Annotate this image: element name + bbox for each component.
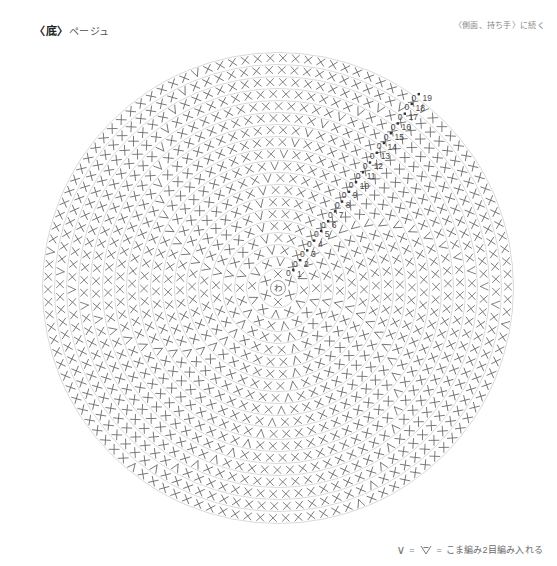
single-crochet-symbol bbox=[221, 230, 231, 240]
single-crochet-symbol bbox=[85, 415, 95, 425]
single-crochet-symbol bbox=[171, 489, 180, 498]
single-crochet-symbol bbox=[216, 306, 225, 315]
single-crochet-symbol bbox=[433, 341, 442, 350]
single-crochet-symbol bbox=[419, 301, 427, 309]
single-crochet-symbol bbox=[480, 270, 487, 277]
single-crochet-symbol bbox=[388, 193, 398, 203]
single-crochet-symbol bbox=[87, 371, 96, 380]
single-crochet-symbol bbox=[135, 329, 144, 338]
single-crochet-symbol bbox=[161, 237, 170, 246]
increase-stitch-symbol bbox=[192, 459, 202, 469]
single-crochet-symbol bbox=[132, 317, 140, 325]
increase-stitch-symbol bbox=[438, 241, 447, 250]
single-crochet-symbol bbox=[407, 143, 417, 153]
single-crochet-symbol bbox=[192, 433, 201, 442]
single-crochet-symbol bbox=[118, 214, 127, 223]
single-crochet-symbol bbox=[304, 141, 312, 149]
increase-stitch-symbol bbox=[355, 107, 365, 117]
single-crochet-symbol bbox=[351, 392, 361, 402]
single-crochet-symbol bbox=[399, 187, 409, 197]
row-start-marker: 0 bbox=[391, 122, 396, 132]
single-crochet-symbol bbox=[418, 430, 428, 440]
single-crochet-symbol bbox=[432, 283, 439, 290]
single-crochet-symbol bbox=[251, 379, 259, 387]
single-crochet-symbol bbox=[272, 394, 279, 401]
single-crochet-symbol bbox=[430, 451, 440, 461]
legend: ∨ = = こま編み2目編み入れる bbox=[396, 543, 543, 556]
single-crochet-symbol bbox=[66, 383, 75, 392]
single-crochet-symbol bbox=[375, 242, 384, 251]
increase-stitch-symbol bbox=[80, 302, 88, 310]
single-crochet-symbol bbox=[373, 421, 383, 431]
single-crochet-symbol bbox=[477, 362, 486, 371]
single-crochet-symbol bbox=[117, 273, 124, 280]
single-crochet-symbol bbox=[274, 334, 281, 341]
single-crochet-symbol bbox=[60, 198, 69, 207]
single-crochet-symbol bbox=[294, 441, 302, 449]
single-crochet-symbol bbox=[475, 173, 485, 183]
single-crochet-symbol bbox=[442, 216, 451, 225]
single-crochet-symbol bbox=[189, 295, 197, 303]
single-crochet-symbol bbox=[350, 159, 360, 169]
increase-stitch-symbol bbox=[289, 381, 297, 390]
single-crochet-symbol bbox=[113, 338, 122, 347]
single-crochet-symbol bbox=[201, 366, 211, 376]
single-crochet-symbol bbox=[412, 238, 421, 247]
single-crochet-symbol bbox=[297, 391, 305, 399]
single-crochet-symbol bbox=[83, 389, 93, 399]
single-crochet-symbol bbox=[204, 384, 214, 394]
single-crochet-symbol bbox=[57, 293, 64, 300]
single-crochet-symbol bbox=[370, 209, 380, 219]
single-crochet-symbol bbox=[135, 383, 145, 393]
single-crochet-symbol bbox=[477, 320, 485, 328]
single-crochet-symbol bbox=[413, 209, 422, 218]
single-crochet-symbol bbox=[275, 102, 282, 109]
increase-stitch-symbol bbox=[291, 139, 299, 147]
single-crochet-symbol bbox=[207, 478, 216, 487]
single-crochet-symbol bbox=[270, 114, 277, 121]
single-crochet-symbol bbox=[492, 357, 501, 366]
single-crochet-symbol bbox=[279, 454, 286, 461]
single-crochet-symbol bbox=[56, 360, 65, 369]
single-crochet-symbol bbox=[468, 280, 475, 287]
single-crochet-symbol bbox=[342, 412, 351, 421]
single-crochet-symbol bbox=[420, 276, 427, 283]
single-crochet-symbol bbox=[240, 335, 250, 345]
single-crochet-symbol bbox=[222, 200, 232, 210]
increase-stitch-symbol bbox=[375, 104, 385, 114]
increase-stitch-symbol bbox=[191, 257, 200, 266]
single-crochet-symbol bbox=[232, 498, 240, 506]
single-crochet-symbol bbox=[352, 341, 362, 351]
single-crochet-symbol bbox=[461, 151, 471, 161]
single-crochet-symbol bbox=[400, 460, 410, 470]
single-crochet-symbol bbox=[293, 151, 301, 159]
single-crochet-symbol bbox=[413, 326, 422, 335]
row-start-marker: 0 bbox=[377, 141, 382, 151]
single-crochet-symbol bbox=[146, 189, 156, 199]
single-crochet-symbol bbox=[292, 79, 300, 87]
single-crochet-symbol bbox=[228, 472, 236, 480]
single-crochet-symbol bbox=[131, 432, 141, 442]
single-crochet-symbol bbox=[269, 442, 276, 449]
single-crochet-symbol bbox=[361, 199, 371, 209]
single-crochet-symbol bbox=[129, 395, 139, 405]
single-crochet-symbol bbox=[307, 426, 315, 434]
single-crochet-symbol bbox=[211, 374, 221, 384]
single-crochet-symbol bbox=[212, 282, 219, 289]
single-crochet-symbol bbox=[195, 174, 205, 184]
single-crochet-symbol bbox=[414, 417, 424, 427]
single-crochet-symbol bbox=[491, 263, 499, 271]
single-crochet-symbol bbox=[429, 435, 439, 445]
single-crochet-symbol bbox=[320, 497, 328, 505]
increase-stitch-symbol bbox=[173, 237, 183, 247]
increase-stitch-symbol bbox=[345, 304, 354, 313]
single-crochet-symbol bbox=[302, 308, 312, 318]
increase-stitch-symbol bbox=[202, 263, 211, 272]
single-crochet-symbol bbox=[414, 356, 423, 365]
single-crochet-symbol bbox=[353, 68, 362, 77]
single-crochet-symbol bbox=[137, 404, 147, 414]
row-start-dot bbox=[320, 230, 322, 232]
single-crochet-symbol bbox=[279, 370, 286, 377]
increase-stitch-symbol bbox=[191, 68, 200, 78]
single-crochet-symbol bbox=[426, 421, 436, 431]
